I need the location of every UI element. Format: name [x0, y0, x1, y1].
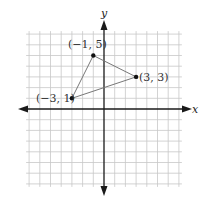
- point-label-neg3-1: (−3, 1): [36, 92, 75, 105]
- point-label-3-3: (3, 3): [139, 71, 169, 84]
- y-axis-top-arrow-icon: [101, 20, 108, 30]
- plot-svg: x y (−1, 5) (3, 3) (−3, 1): [0, 0, 210, 203]
- data-point: [91, 53, 95, 57]
- y-axis-label: y: [100, 7, 108, 20]
- coordinate-plane: x y (−1, 5) (3, 3) (−3, 1): [0, 0, 210, 203]
- x-axis-right-arrow-icon: [182, 106, 192, 113]
- x-axis-left-arrow-icon: [18, 106, 28, 113]
- point-label-neg1-5: (−1, 5): [68, 38, 107, 51]
- x-axis-label: x: [192, 103, 199, 116]
- data-point: [134, 75, 138, 79]
- y-axis-bottom-arrow-icon: [101, 186, 108, 196]
